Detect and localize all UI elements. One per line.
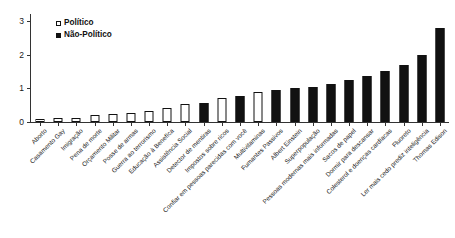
- x-axis-tick-mark: [149, 123, 150, 126]
- bar-slot: [267, 14, 285, 122]
- y-axis-tick-mark: [27, 55, 30, 56]
- bar[interactable]: [435, 28, 444, 123]
- x-axis-tick-mark: [331, 123, 332, 126]
- x-axis-tick-mark: [204, 123, 205, 126]
- bar[interactable]: [326, 84, 335, 122]
- x-axis-tick-mark: [185, 123, 186, 126]
- bar[interactable]: [290, 88, 299, 122]
- x-axis-tick-mark: [222, 123, 223, 126]
- y-axis-tick-label: 0: [6, 118, 24, 127]
- x-axis-tick-mark: [40, 123, 41, 126]
- bar-slot: [394, 14, 412, 122]
- y-axis-tick-mark: [27, 122, 30, 123]
- bar-slot: [31, 14, 49, 122]
- bar-slot: [231, 14, 249, 122]
- bar[interactable]: [36, 119, 45, 122]
- x-axis-tick-mark: [385, 123, 386, 126]
- x-axis-tick-label: Thomas Edison: [412, 127, 448, 163]
- x-axis-tick-mark: [240, 123, 241, 126]
- x-axis-tick-mark: [167, 123, 168, 126]
- bar[interactable]: [181, 104, 190, 122]
- bar[interactable]: [363, 76, 372, 122]
- y-axis-tick-label: 3: [6, 17, 24, 26]
- bar-slot: [213, 14, 231, 122]
- legend-swatch-nao-politico-icon: [56, 33, 61, 38]
- x-axis-tick-mark: [404, 123, 405, 126]
- legend-item-politico[interactable]: Político: [56, 18, 112, 29]
- bar[interactable]: [345, 80, 354, 122]
- legend-label-politico: Político: [64, 19, 94, 27]
- bar[interactable]: [308, 87, 317, 122]
- x-axis-tick-mark: [367, 123, 368, 126]
- bar[interactable]: [217, 98, 226, 122]
- bar-slot: [304, 14, 322, 122]
- bar[interactable]: [417, 55, 426, 123]
- legend-item-nao-politico[interactable]: Não-Político: [56, 30, 112, 41]
- bar[interactable]: [272, 90, 281, 122]
- bar[interactable]: [399, 65, 408, 122]
- bar-slot: [122, 14, 140, 122]
- x-axis-tick-mark: [58, 123, 59, 126]
- bar[interactable]: [72, 118, 81, 122]
- y-axis-tick-mark: [27, 21, 30, 22]
- bar-slot: [376, 14, 394, 122]
- bar[interactable]: [54, 118, 63, 122]
- bar-slot: [140, 14, 158, 122]
- y-axis-tick-label: 1: [6, 84, 24, 93]
- bar[interactable]: [145, 111, 154, 122]
- x-axis-tick-mark: [313, 123, 314, 126]
- bar-slot: [358, 14, 376, 122]
- bar-slot: [340, 14, 358, 122]
- bar-slot: [431, 14, 449, 122]
- x-axis-tick-mark: [440, 123, 441, 126]
- bar-slot: [285, 14, 303, 122]
- bar-slot: [158, 14, 176, 122]
- chart-legend: Político Não-Político: [56, 18, 112, 42]
- bar-slot: [413, 14, 431, 122]
- x-axis-tick-mark: [95, 123, 96, 126]
- bar[interactable]: [199, 103, 208, 122]
- bar[interactable]: [381, 71, 390, 122]
- bar-chart: 0123 AbortoCasamento GayImigraçãoPena de…: [0, 0, 455, 238]
- x-axis-tick-mark: [131, 123, 132, 126]
- legend-label-nao-politico: Não-Político: [64, 31, 112, 39]
- y-axis-tick-mark: [27, 88, 30, 89]
- bar[interactable]: [126, 113, 135, 122]
- x-axis-tick-mark: [258, 123, 259, 126]
- x-axis-tick-mark: [76, 123, 77, 126]
- legend-swatch-politico-icon: [56, 21, 61, 26]
- x-axis-tick-mark: [349, 123, 350, 126]
- bar-slot: [195, 14, 213, 122]
- bar[interactable]: [254, 92, 263, 122]
- x-axis-tick-mark: [276, 123, 277, 126]
- bar-slot: [176, 14, 194, 122]
- x-axis-tick-mark: [422, 123, 423, 126]
- bar[interactable]: [163, 108, 172, 122]
- x-axis-tick-mark: [295, 123, 296, 126]
- x-axis-tick-label: Ler mais cedo prediz inteligência: [359, 127, 430, 198]
- bar[interactable]: [235, 96, 244, 122]
- y-axis-tick-label: 2: [6, 51, 24, 60]
- bar-slot: [249, 14, 267, 122]
- x-axis-tick-mark: [113, 123, 114, 126]
- bar[interactable]: [90, 115, 99, 122]
- bar-slot: [322, 14, 340, 122]
- bar[interactable]: [108, 114, 117, 122]
